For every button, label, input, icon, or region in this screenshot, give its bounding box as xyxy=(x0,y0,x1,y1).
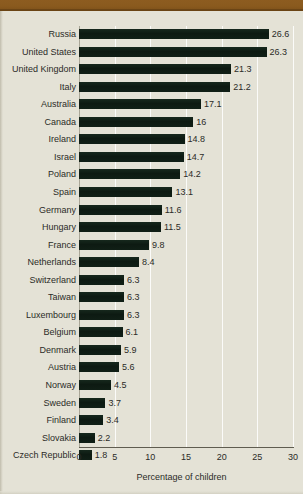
bar-value-label: 3.7 xyxy=(108,398,121,409)
category-label: Canada xyxy=(0,117,76,128)
x-tick-label-10: 10 xyxy=(138,451,162,463)
bar-value-label: 9.8 xyxy=(152,240,165,251)
bar-value-label: 3.4 xyxy=(106,415,119,426)
bar-row: Netherlands8.4 xyxy=(0,254,303,272)
bar xyxy=(79,29,269,39)
bar xyxy=(79,205,162,215)
category-label: Switzerland xyxy=(0,275,76,286)
bar-row: Germany11.6 xyxy=(0,202,303,220)
bar-value-label: 11.6 xyxy=(165,205,182,216)
bar xyxy=(79,380,111,390)
category-label: United Kingdom xyxy=(0,64,76,75)
bar xyxy=(79,398,105,408)
bar-row: Italy21.2 xyxy=(0,79,303,97)
bar-row: Belgium6.1 xyxy=(0,324,303,342)
bar xyxy=(79,327,123,337)
bar xyxy=(79,362,119,372)
bar xyxy=(79,275,124,285)
x-tick-label-15: 15 xyxy=(174,451,198,463)
bar-value-label: 5.9 xyxy=(124,345,137,356)
bar xyxy=(79,99,201,109)
bar-value-label: 8.4 xyxy=(142,257,155,268)
bar-row: Austria5.6 xyxy=(0,359,303,377)
bar xyxy=(79,433,95,443)
bar-row: Ireland14.8 xyxy=(0,131,303,149)
category-label: France xyxy=(0,240,76,251)
bar-value-label: 17.1 xyxy=(204,99,222,110)
category-label: Germany xyxy=(0,205,76,216)
bar xyxy=(79,64,231,74)
bar xyxy=(79,222,161,232)
x-axis-ticks: 051015202530 xyxy=(0,451,303,465)
bar xyxy=(79,310,124,320)
category-label: Norway xyxy=(0,380,76,391)
bar-row: Poland14.2 xyxy=(0,166,303,184)
bar-value-label: 16 xyxy=(196,117,206,128)
bar xyxy=(79,257,139,267)
category-label: Italy xyxy=(0,82,76,93)
bar-row: Canada16 xyxy=(0,114,303,132)
bar-row: Australia17.1 xyxy=(0,96,303,114)
x-tick-label-30: 30 xyxy=(281,451,303,463)
bar-row: Taiwan6.3 xyxy=(0,289,303,307)
x-tick-label-20: 20 xyxy=(210,451,234,463)
bar xyxy=(79,187,172,197)
category-label: Hungary xyxy=(0,222,76,233)
bar-row: United States26.3 xyxy=(0,44,303,62)
bar-row: Slovakia2.2 xyxy=(0,430,303,448)
category-label: Israel xyxy=(0,152,76,163)
category-label: Taiwan xyxy=(0,292,76,303)
bar-row: Spain13.1 xyxy=(0,184,303,202)
category-label: Sweden xyxy=(0,398,76,409)
bar-value-label: 6.1 xyxy=(126,327,139,338)
bar-row: Finland3.4 xyxy=(0,412,303,430)
category-label: Belgium xyxy=(0,327,76,338)
x-tick-label-0: 0 xyxy=(67,451,91,463)
bar-row: Luxembourg6.3 xyxy=(0,307,303,325)
x-tick-label-5: 5 xyxy=(103,451,127,463)
bar xyxy=(79,169,180,179)
bar-value-label: 14.2 xyxy=(183,169,201,180)
bar-value-label: 21.3 xyxy=(234,64,252,75)
bar xyxy=(79,292,124,302)
category-label: Denmark xyxy=(0,345,76,356)
bar-row: Norway4.5 xyxy=(0,377,303,395)
bar-value-label: 6.3 xyxy=(127,310,140,321)
bar xyxy=(79,82,230,92)
category-label: Austria xyxy=(0,362,76,373)
bar-row: Russia26.6 xyxy=(0,26,303,44)
bar-row: Switzerland6.3 xyxy=(0,272,303,290)
bar-value-label: 6.3 xyxy=(127,275,140,286)
bar-row: Denmark5.9 xyxy=(0,342,303,360)
category-label: Finland xyxy=(0,415,76,426)
bar-value-label: 11.5 xyxy=(164,222,181,233)
bar-row: Israel14.7 xyxy=(0,149,303,167)
bar-value-label: 13.1 xyxy=(175,187,193,198)
bar-row: Hungary11.5 xyxy=(0,219,303,237)
category-label: Russia xyxy=(0,29,76,40)
bar-value-label: 21.2 xyxy=(233,82,251,93)
category-label: Ireland xyxy=(0,134,76,145)
category-label: Luxembourg xyxy=(0,310,76,321)
x-tick-label-25: 25 xyxy=(245,451,269,463)
bar-row: United Kingdom21.3 xyxy=(0,61,303,79)
bar-value-label: 14.7 xyxy=(187,152,205,163)
category-label: Netherlands xyxy=(0,257,76,268)
bar xyxy=(79,117,193,127)
bar-row: France9.8 xyxy=(0,237,303,255)
bar-value-label: 14.8 xyxy=(188,134,206,145)
bar xyxy=(79,47,267,57)
category-label: Poland xyxy=(0,169,76,180)
bar-value-label: 4.5 xyxy=(114,380,127,391)
page-header-band xyxy=(0,0,303,11)
bar-value-label: 5.6 xyxy=(122,362,135,373)
bar xyxy=(79,345,121,355)
category-label: Spain xyxy=(0,187,76,198)
category-label: Slovakia xyxy=(0,433,76,444)
category-label: Australia xyxy=(0,99,76,110)
bar xyxy=(79,415,103,425)
bar-value-label: 26.3 xyxy=(270,47,288,58)
bar xyxy=(79,152,184,162)
bar xyxy=(79,134,185,144)
bar xyxy=(79,240,149,250)
